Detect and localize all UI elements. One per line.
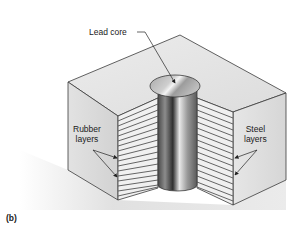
rubber-layers-label-line2: layers (73, 134, 101, 144)
rubber-layers-label-line1: Rubber (73, 124, 101, 134)
lead-core-top (150, 75, 200, 97)
steel-layers-label: Steel layers (244, 124, 267, 144)
panel-label: (b) (6, 213, 17, 223)
bearing-diagram (0, 0, 298, 228)
steel-layers-label-line1: Steel (244, 124, 267, 134)
rubber-layers-label: Rubber layers (73, 124, 101, 144)
steel-layers-label-line2: layers (244, 134, 267, 144)
lead-core-label: Lead core (89, 27, 127, 37)
steel-layer-stack (197, 98, 233, 205)
rubber-layer-stack (118, 98, 158, 200)
